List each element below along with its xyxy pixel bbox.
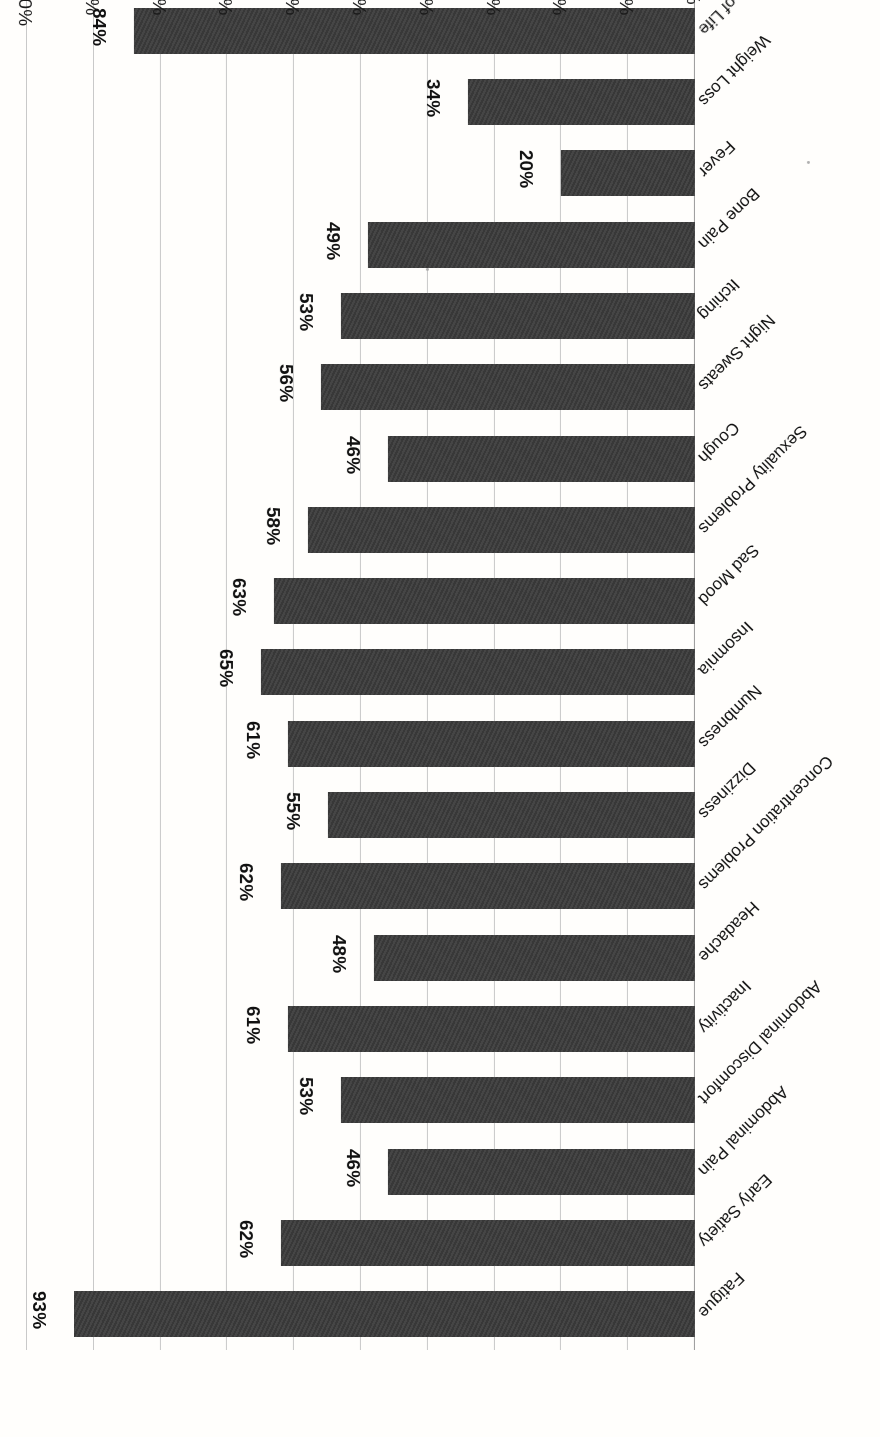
category-label: Abdominal Discomfort xyxy=(694,977,826,1109)
bar xyxy=(388,1149,695,1195)
bar-value-label: 61% xyxy=(242,1006,264,1044)
bar-row xyxy=(27,222,695,268)
bar-row xyxy=(27,1220,695,1266)
x-tick-label: 20% xyxy=(548,0,570,16)
bar xyxy=(388,436,695,482)
bar-value-label: 62% xyxy=(235,863,257,901)
scan-speck xyxy=(426,268,429,271)
x-tick-label: 100% xyxy=(14,0,36,26)
bar xyxy=(341,293,695,339)
bar xyxy=(468,79,695,125)
category-label: Sad Mood xyxy=(694,540,763,609)
category-label: Dizziness xyxy=(694,758,760,824)
bar-chart: 0%10%20%30%40%50%60%70%80%90%100% Fatigu… xyxy=(0,0,880,1437)
ghost-line xyxy=(573,962,580,982)
bar-value-label: 20% xyxy=(515,150,537,188)
bar xyxy=(368,222,695,268)
bar-value-label: 61% xyxy=(242,721,264,759)
ghost-line xyxy=(573,512,580,532)
bar xyxy=(288,721,695,767)
bar-row xyxy=(27,792,695,838)
bar-rows xyxy=(27,0,695,1350)
bar xyxy=(274,578,695,624)
bar-row xyxy=(27,1006,695,1052)
bar-row xyxy=(27,79,695,125)
bar-value-label: 84% xyxy=(88,8,110,46)
category-label: Itching xyxy=(694,274,744,324)
bar xyxy=(261,650,695,696)
bar xyxy=(281,863,695,909)
category-label: Insomnia xyxy=(694,618,757,681)
bar xyxy=(321,364,695,410)
bar-value-label: 53% xyxy=(295,1077,317,1115)
bar-row xyxy=(27,364,695,410)
x-tick-label: 50% xyxy=(348,0,370,16)
bar xyxy=(308,507,695,553)
bar-value-label: 34% xyxy=(422,79,444,117)
category-label: Numbness xyxy=(694,680,766,752)
bar-value-label: 55% xyxy=(282,792,304,830)
category-label: Early Satiety xyxy=(694,1169,776,1251)
category-label: Cough xyxy=(694,417,744,467)
category-label: Inactivity xyxy=(694,976,755,1037)
bar-row xyxy=(27,935,695,981)
x-tick-label: 60% xyxy=(281,0,303,16)
bar-value-label: 46% xyxy=(342,1149,364,1187)
bar-value-label: 63% xyxy=(228,578,250,616)
bar-value-label: 46% xyxy=(342,436,364,474)
bar xyxy=(74,1291,695,1337)
bar xyxy=(288,1006,695,1052)
x-tick-label: 10% xyxy=(615,0,637,16)
plot-area xyxy=(27,0,695,1350)
ghost-line xyxy=(573,297,580,317)
x-tick-label: 40% xyxy=(415,0,437,16)
bar xyxy=(374,935,695,981)
bar-row xyxy=(27,578,695,624)
bar xyxy=(561,150,695,196)
bar-value-label: 53% xyxy=(295,293,317,331)
bar-value-label: 56% xyxy=(275,364,297,402)
bar-row xyxy=(27,150,695,196)
bar-value-label: 48% xyxy=(328,935,350,973)
bar xyxy=(281,1220,695,1266)
scanned-page: 0%10%20%30%40%50%60%70%80%90%100% Fatigu… xyxy=(0,0,880,1437)
category-label: Weight Loss xyxy=(694,30,774,110)
bar-row xyxy=(27,650,695,696)
x-tick-label: 80% xyxy=(148,0,170,16)
bar-value-label: 65% xyxy=(215,650,237,688)
bar-value-label: 93% xyxy=(28,1291,50,1329)
category-label: Bone Pain xyxy=(694,183,764,253)
bar-row xyxy=(27,1077,695,1123)
x-tick-label: 30% xyxy=(482,0,504,16)
bar-value-label: 49% xyxy=(322,222,344,260)
category-label: Headache xyxy=(694,897,763,966)
bar-row xyxy=(27,721,695,767)
category-label: Fever xyxy=(694,136,739,181)
bar xyxy=(328,792,695,838)
category-label: Fatigue xyxy=(694,1268,748,1322)
bar-row xyxy=(27,507,695,553)
x-tick-label: 0% xyxy=(682,0,704,5)
category-label: Concentration Problems xyxy=(694,751,837,894)
bar-row xyxy=(27,1291,695,1337)
x-tick-label: 70% xyxy=(214,0,236,16)
bar-row xyxy=(27,863,695,909)
bar-value-label: 62% xyxy=(235,1220,257,1258)
bar-row xyxy=(27,293,695,339)
bar xyxy=(341,1077,695,1123)
bar-value-label: 58% xyxy=(262,507,284,545)
scan-speck xyxy=(807,161,810,164)
ghost-line xyxy=(573,727,580,747)
